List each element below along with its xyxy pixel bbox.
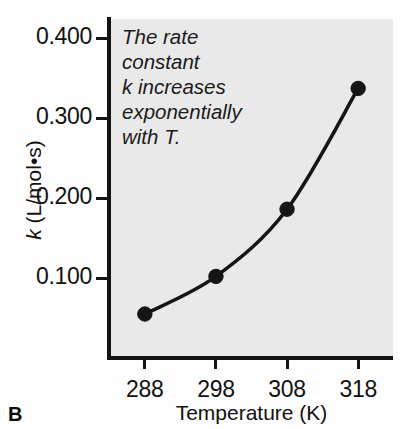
data-point-marker <box>209 269 223 283</box>
data-layer <box>0 0 408 429</box>
figure-panel-b: 0.1000.2000.3000.400 288298308318 k (L/m… <box>0 0 408 429</box>
data-point-marker <box>351 81 365 95</box>
series-markers-k <box>138 81 366 321</box>
data-point-marker <box>138 307 152 321</box>
data-point-marker <box>280 202 294 216</box>
series-line-k <box>145 88 358 314</box>
